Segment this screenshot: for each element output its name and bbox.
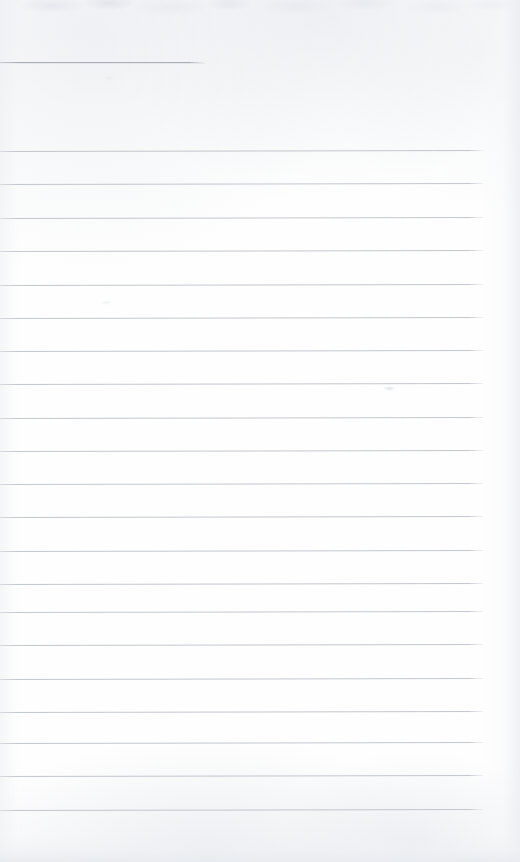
paper-surface (0, 0, 520, 862)
notebook-page (0, 0, 520, 862)
rule-line-header (0, 62, 205, 63)
